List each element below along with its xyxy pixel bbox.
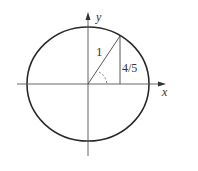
hypotenuse-label: 1 <box>96 44 103 59</box>
angle-arc <box>99 72 107 84</box>
unit-circle-diagram: 1 4/5 y x <box>0 0 198 171</box>
diagram-canvas: 1 4/5 y x <box>0 0 198 171</box>
y-axis-arrow-icon <box>86 12 91 20</box>
opposite-label: 4/5 <box>122 61 137 75</box>
y-axis-label: y <box>95 10 102 24</box>
x-axis-label: x <box>161 85 168 99</box>
radius-line <box>88 36 120 84</box>
